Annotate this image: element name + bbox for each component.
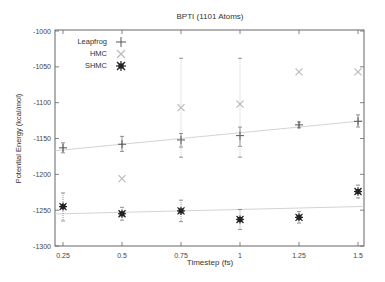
x-tick-label: 1.5: [353, 252, 363, 259]
chart-plot-area: -1000-1050-1100-1150-1200-1250-13000.250…: [0, 0, 385, 282]
trend-line-shmc: [55, 206, 364, 214]
legend-item-hmc: HMC: [60, 48, 135, 60]
y-tick-label: -1250: [33, 207, 51, 214]
trend-line-leapfrog: [55, 121, 364, 151]
y-tick-label: -1300: [33, 243, 51, 250]
data-point-shmc: [120, 211, 125, 216]
star-marker-icon: [115, 60, 127, 72]
x-tick-label: 1: [238, 252, 242, 259]
x-tick-label: 0.75: [174, 252, 188, 259]
x-tick-label: 0.25: [56, 252, 70, 259]
data-point-shmc: [61, 204, 66, 209]
legend: Leapfrog HMC SHMC: [60, 36, 135, 72]
plus-marker-icon: [115, 36, 127, 48]
y-tick-label: -1150: [34, 135, 51, 142]
legend-item-leapfrog: Leapfrog: [60, 36, 135, 48]
data-point-shmc: [356, 189, 361, 194]
y-tick-label: -1100: [34, 99, 51, 106]
data-point-shmc: [238, 217, 243, 222]
y-tick-label: -1050: [33, 63, 51, 70]
legend-label-shmc: SHMC: [85, 61, 107, 70]
data-point-shmc: [297, 215, 302, 220]
legend-label-hmc: HMC: [90, 49, 107, 58]
legend-label-leapfrog: Leapfrog: [77, 37, 107, 46]
x-marker-icon: [115, 48, 127, 60]
y-tick-label: -1200: [33, 171, 51, 178]
y-tick-label: -1000: [33, 28, 51, 35]
x-tick-label: 1.25: [292, 252, 306, 259]
legend-item-shmc: SHMC: [60, 60, 135, 72]
data-point-shmc: [179, 208, 184, 213]
x-tick-label: 0.5: [117, 252, 127, 259]
